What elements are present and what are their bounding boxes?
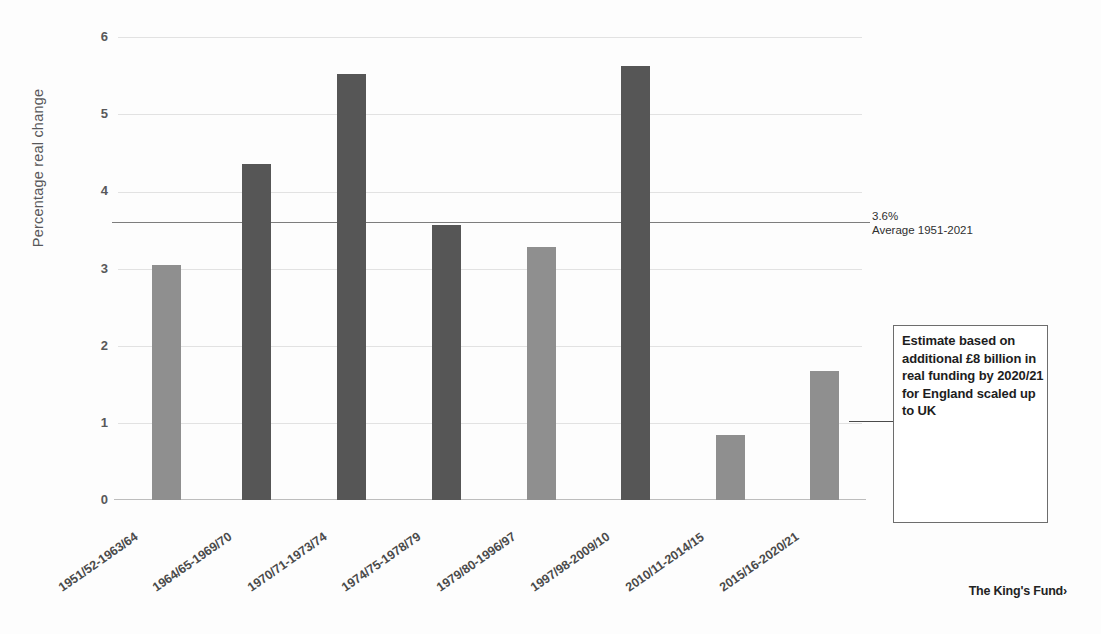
x-tick-1970-71-1973-74: 1970/71-1973/74 xyxy=(245,530,329,595)
callout-box: Estimate based on additional £8 billion … xyxy=(893,325,1048,523)
x-tick-1951-52-1963-64: 1951/52-1963/64 xyxy=(56,530,140,595)
kings-fund-logo: The King's Fund› xyxy=(969,584,1067,598)
x-axis-tick-labels: 1951/52-1963/64 1964/65-1969/70 1970/71-… xyxy=(0,0,1101,634)
average-period-label: Average 1951-2021 xyxy=(872,223,1072,237)
x-tick-2015-16-2020-21: 2015/16-2020/21 xyxy=(717,530,801,595)
x-tick-1997-98-2009-10: 1997/98-2009/10 xyxy=(528,530,612,595)
x-tick-1974-75-1978-79: 1974/75-1978/79 xyxy=(339,530,423,595)
average-line-annotation: 3.6% Average 1951-2021 xyxy=(872,209,1072,237)
x-tick-1979-80-1996-97: 1979/80-1996/97 xyxy=(434,530,518,595)
callout-text: Estimate based on additional £8 billion … xyxy=(902,332,1044,420)
x-tick-1964-65-1969-70: 1964/65-1969/70 xyxy=(150,530,234,595)
x-tick-2010-11-2014-15: 2010/11-2014/15 xyxy=(623,530,707,594)
chart-figure: Percentage real change 6 5 4 3 2 1 0 195… xyxy=(0,0,1101,634)
average-value-label: 3.6% xyxy=(872,209,1072,223)
callout-leader-line xyxy=(849,421,894,422)
